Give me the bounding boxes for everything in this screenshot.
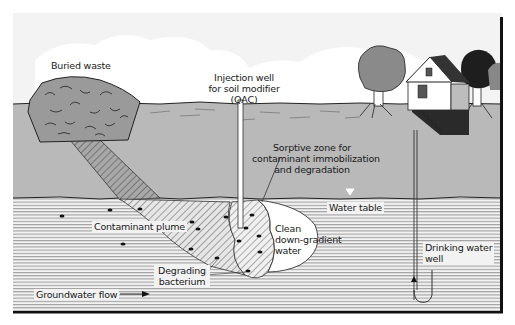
injection-well bbox=[238, 100, 243, 228]
label-degrading-bacterium: Degrading bacterium bbox=[154, 265, 210, 287]
frame-right bbox=[500, 17, 503, 313]
label-water-table: Water table bbox=[327, 202, 384, 213]
label-buried-waste: Buried waste bbox=[51, 60, 111, 71]
diagram: Buried waste Injection well for soil mod… bbox=[0, 0, 515, 325]
label-clean-water: Clean down-gradient water bbox=[275, 223, 341, 256]
frame-bottom bbox=[13, 311, 503, 314]
label-contaminant-plume: Contaminant plume bbox=[92, 221, 187, 232]
label-injection-well: Injection well for soil modifier (QAC) bbox=[198, 72, 290, 105]
label-sorptive-zone: Sorptive zone for contaminant immobiliza… bbox=[252, 142, 372, 175]
label-drinking-water-well: Drinking water well bbox=[423, 242, 494, 264]
label-groundwater-flow: Groundwater flow bbox=[34, 289, 119, 300]
